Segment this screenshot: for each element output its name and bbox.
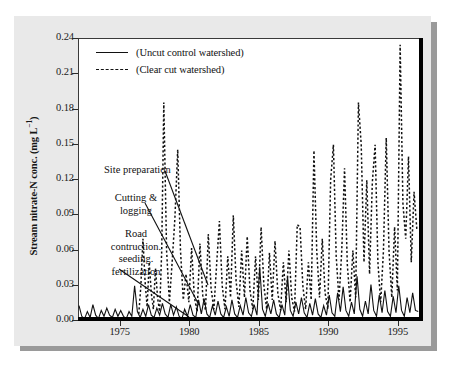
- x-tick-label: 1975: [96, 326, 144, 337]
- legend-item-uncut-control: (Uncut control watershed): [96, 44, 306, 61]
- x-tick-label: 1990: [304, 326, 352, 337]
- legend-swatch-solid-line-icon: [96, 48, 128, 57]
- x-tick-label: 1995: [374, 326, 422, 337]
- annotation-road-construction-line3: seeding.: [94, 253, 178, 266]
- y-tick-label: 0.12: [38, 172, 74, 183]
- series-clear-cut-watershed: [139, 45, 417, 314]
- x-tick-mark: [120, 321, 121, 326]
- x-axis-rule: [78, 317, 423, 321]
- legend-label-uncut-control: (Uncut control watershed): [136, 47, 244, 58]
- annotation-site-preparation-text: Site preparation: [104, 164, 171, 175]
- annotation-cutting-logging-line2: logging: [106, 205, 166, 218]
- y-tick-label: 0.24: [38, 31, 74, 42]
- y-tick-label: 0.00: [38, 313, 74, 324]
- y-tick-label: 0.06: [38, 243, 74, 254]
- legend-item-clear-cut: (Clear cut watershed): [96, 61, 306, 78]
- x-tick-mark: [328, 321, 329, 326]
- annotation-cutting-logging: Cutting & logging: [106, 192, 166, 217]
- y-tick-label: 0.15: [38, 137, 74, 148]
- annotation-site-preparation: Site preparation: [104, 164, 171, 177]
- plot-canvas: [79, 39, 421, 321]
- x-tick-mark: [398, 321, 399, 326]
- annotation-road-construction-line4: fertilization: [94, 266, 178, 279]
- x-tick-label: 1985: [235, 326, 283, 337]
- y-tick-label: 0.03: [38, 278, 74, 289]
- legend-swatch-dashed-line-icon: [96, 65, 128, 74]
- figure-page: Stream nitrate-N conc. (mg L−1) 0.000.03…: [0, 0, 454, 372]
- x-tick-label: 1980: [165, 326, 213, 337]
- panel-shadow-bottom: [20, 346, 437, 351]
- panel-shadow-right: [431, 22, 437, 351]
- x-tick-mark: [189, 321, 190, 326]
- right-axis-rule: [419, 38, 423, 321]
- annotation-road-construction-line2: contruction.: [94, 241, 178, 254]
- annotation-road-construction: Road contruction. seeding. fertilization: [94, 228, 178, 278]
- y-tick-label: 0.21: [38, 66, 74, 77]
- legend: (Uncut control watershed) (Clear cut wat…: [96, 44, 306, 78]
- y-tick-label: 0.09: [38, 207, 74, 218]
- y-axis-tick-labels: 0.000.030.060.090.120.150.180.210.24: [30, 0, 74, 372]
- annotation-road-construction-line1: Road: [94, 228, 178, 241]
- x-tick-mark: [259, 321, 260, 326]
- y-tick-label: 0.18: [38, 102, 74, 113]
- annotation-cutting-logging-line1: Cutting &: [106, 192, 166, 205]
- legend-label-clear-cut: (Clear cut watershed): [136, 64, 224, 75]
